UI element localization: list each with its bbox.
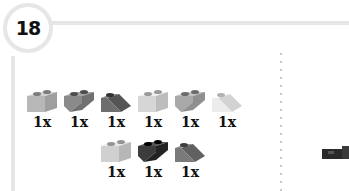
part-quantity: 1x (61, 114, 97, 130)
slope-inverted-1x2-icon (61, 88, 97, 114)
part-item: 1x (135, 88, 171, 130)
part-item: 1x (98, 138, 134, 180)
slope-inverted-1x2-icon (172, 88, 208, 114)
slope-1x2-icon (172, 138, 208, 164)
part-quantity: 1x (24, 114, 60, 130)
part-item: 1x (61, 88, 97, 130)
part-quantity: 1x (172, 114, 208, 130)
part-item: 1x (24, 88, 60, 130)
brick-1x2-icon (24, 88, 60, 114)
step-frame-top-border (44, 21, 349, 25)
slope-1x2-icon (209, 88, 245, 114)
part-item: 1x (209, 88, 245, 130)
part-item: 1x (172, 88, 208, 130)
slope-inverted-1x2-icon (135, 138, 171, 164)
part-quantity: 1x (172, 164, 208, 180)
part-quantity: 1x (135, 114, 171, 130)
brick-1x2-icon (135, 88, 171, 114)
step-frame-left-border (11, 56, 15, 191)
step-number: 18 (16, 17, 40, 39)
part-quantity: 1x (98, 164, 134, 180)
part-quantity: 1x (135, 164, 171, 180)
model-preview (322, 145, 349, 164)
brick-1x2-icon (98, 138, 134, 164)
model-brick-icon (322, 146, 349, 160)
part-item: 1x (135, 138, 171, 180)
slope-1x2-icon (98, 88, 134, 114)
part-item: 1x (172, 138, 208, 180)
part-quantity: 1x (209, 114, 245, 130)
part-quantity: 1x (98, 114, 134, 130)
part-item: 1x (98, 88, 134, 130)
step-number-badge: 18 (3, 3, 53, 53)
dotted-divider (280, 50, 282, 191)
